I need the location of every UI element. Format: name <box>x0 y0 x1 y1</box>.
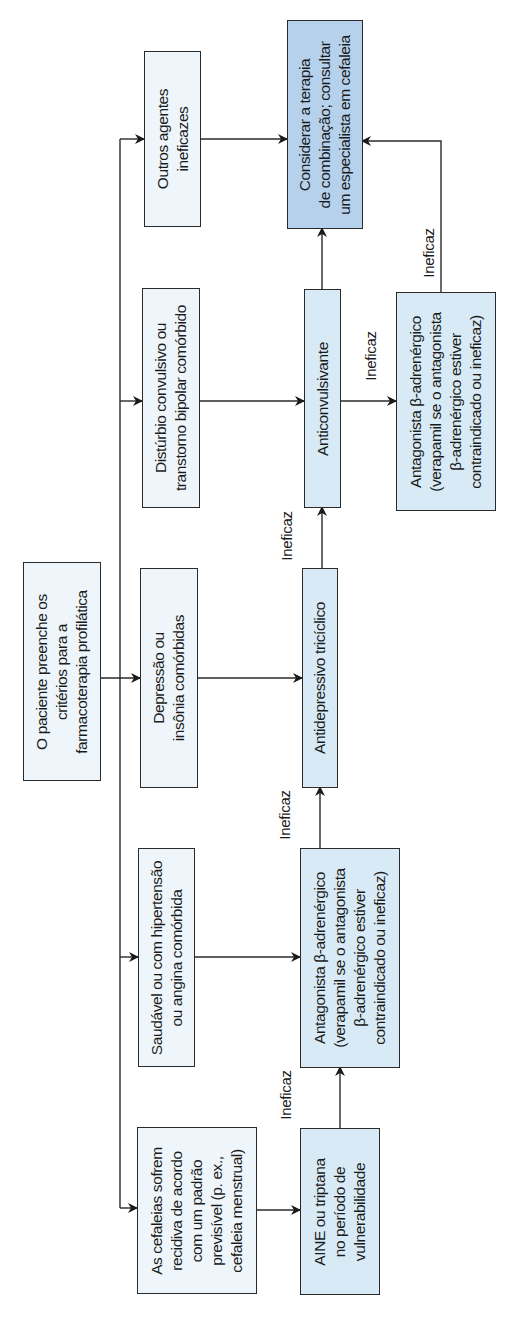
condition-healthy-hypertension: Saudável ou com hipertensão ou angina co… <box>138 848 195 1067</box>
treatment-text: Antidepressivo tricíclico <box>310 570 330 786</box>
treatment-text: AINE ou triptana no período de vulnerabi… <box>310 1130 370 1293</box>
migraine-prophylaxis-flowchart: O paciente preenche os critérios para a … <box>0 0 512 1334</box>
treatment-tricyclic-antidepressant: Antidepressivo tricíclico <box>302 568 338 788</box>
treatment-nsaid-triptan: AINE ou triptana no período de vulnerabi… <box>300 1128 380 1295</box>
treatment-text: Antagonista β-adrenérgico (verapamil se … <box>310 850 390 1066</box>
start-node: O paciente preenche os critérios para a … <box>23 562 101 781</box>
treatment-text: Anticonvulsivante <box>313 291 333 506</box>
condition-seizure-bipolar: Distúrbio convulsivo ou transtorno bipol… <box>142 288 200 508</box>
condition-text: Saudável ou com hipertensão ou angina co… <box>147 850 187 1065</box>
condition-text: Depressão ou insônia comórbidas <box>149 570 189 786</box>
edge-label-ineffective: Ineficaz <box>420 228 437 277</box>
edge-label-ineffective: Ineficaz <box>276 790 293 839</box>
condition-text: Distúrbio convulsivo ou transtorno bipol… <box>151 290 191 506</box>
edge-label-ineffective: Ineficaz <box>277 1070 294 1119</box>
start-node-text: O paciente preenche os critérios para a … <box>32 564 92 779</box>
treatment-beta-blocker: Antagonista β-adrenérgico (verapamil se … <box>300 848 400 1068</box>
treatment-beta-blocker-after-anticonvulsant: Antagonista β-adrenérgico (verapamil se … <box>396 292 496 511</box>
condition-text: Outros agentes ineficazes <box>153 53 193 225</box>
final-node-text: Considerar a terapia de combinação; cons… <box>295 22 355 227</box>
treatment-text: Antagonista β-adrenérgico (verapamil se … <box>406 294 486 509</box>
condition-predictable-pattern: As cefaleias sofrem recidiva de acordo c… <box>137 1127 257 1294</box>
edge-label-ineffective: Ineficaz <box>362 331 379 380</box>
edge-label-ineffective: Ineficaz <box>278 511 295 560</box>
condition-depression-insomnia: Depressão ou insônia comórbidas <box>140 568 198 788</box>
condition-text: As cefaleias sofrem recidiva de acordo c… <box>147 1129 247 1292</box>
condition-other-agents-ineffective: Outros agentes ineficazes <box>144 51 201 227</box>
treatment-anticonvulsant: Anticonvulsivante <box>304 289 341 508</box>
final-node-combination-therapy: Considerar a terapia de combinação; cons… <box>287 20 363 229</box>
